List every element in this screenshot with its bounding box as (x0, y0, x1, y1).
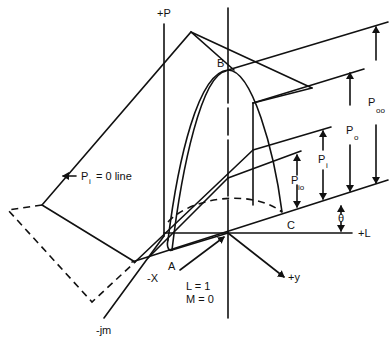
svg-text:P: P (368, 96, 375, 108)
curve-abc (167, 70, 282, 251)
svg-text:io: io (298, 183, 305, 192)
x-axis-label: -X (147, 272, 159, 284)
dashed-arc (168, 198, 282, 222)
diagram-canvas: +P +L -X +y -jm A B C L = 1 M = 0 P i = … (0, 0, 392, 345)
svg-text:= 0 line: = 0 line (96, 170, 132, 182)
p-axis-label: +P (157, 7, 171, 19)
origin-label-l: L = 1 (186, 280, 210, 292)
dimension-arrows (297, 27, 376, 231)
p-i-label: P i (318, 153, 328, 170)
jm-axis-label: -jm (96, 324, 111, 336)
p-oo-label: P oo (368, 96, 385, 115)
pi-zero-line-label: P i = 0 line (81, 170, 132, 186)
construction-lines (104, 103, 253, 318)
svg-text:P: P (318, 153, 325, 165)
svg-text:i: i (89, 177, 91, 186)
point-a-label: A (168, 260, 176, 272)
y-axis-label: +y (288, 271, 300, 283)
svg-text:o: o (354, 133, 359, 142)
svg-text:P: P (346, 124, 353, 136)
l-axis-label: +L (358, 227, 371, 239)
origin-label-m: M = 0 (186, 293, 214, 305)
p-o-label: P o (346, 124, 359, 142)
theta-label: θ (338, 212, 344, 224)
pi-zero-plane (8, 32, 312, 302)
p-io-label: P io (291, 174, 305, 192)
point-b-label: B (217, 57, 224, 69)
svg-text:P: P (81, 170, 88, 182)
svg-text:oo: oo (376, 106, 385, 115)
point-c-label: C (287, 219, 295, 231)
svg-text:i: i (326, 161, 328, 170)
projection-lines (228, 22, 388, 178)
